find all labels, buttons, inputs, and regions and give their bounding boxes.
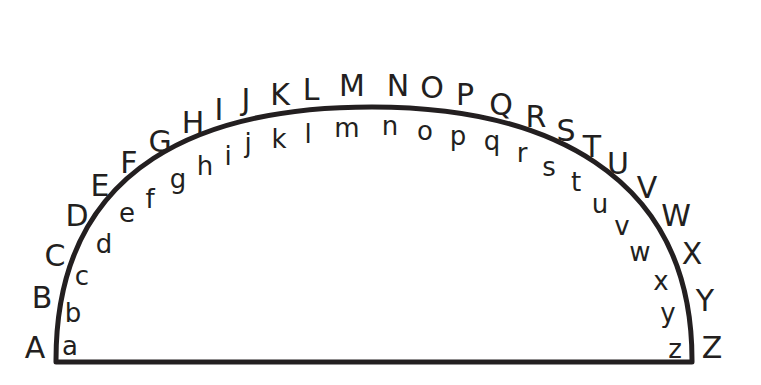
lowercase-letter-m: m [334, 113, 359, 143]
lowercase-letter-i: i [224, 141, 231, 171]
lowercase-letter-o: o [417, 116, 433, 146]
uppercase-letter-X: X [682, 236, 703, 271]
uppercase-letter-W: W [661, 198, 691, 233]
uppercase-letter-R: R [526, 99, 547, 134]
uppercase-letter-I: I [215, 92, 224, 127]
uppercase-letter-T: T [582, 129, 602, 164]
lowercase-letter-p: p [450, 121, 467, 151]
uppercase-letter-B: B [32, 280, 53, 315]
uppercase-letter-J: J [240, 82, 251, 117]
lowercase-letter-h: h [197, 151, 213, 181]
lowercase-letter-a: a [62, 331, 78, 361]
uppercase-letter-Q: Q [489, 87, 513, 122]
uppercase-letter-U: U [607, 146, 629, 181]
uppercase-letter-C: C [45, 238, 66, 273]
uppercase-letter-S: S [556, 113, 575, 148]
uppercase-letter-O: O [420, 70, 444, 105]
lowercase-letter-c: c [75, 261, 89, 291]
uppercase-letter-F: F [120, 145, 137, 180]
lowercase-letter-q: q [484, 126, 501, 156]
lowercase-letter-u: u [592, 189, 608, 219]
lowercase-letter-n: n [382, 111, 398, 141]
lowercase-letter-x: x [653, 266, 668, 296]
uppercase-letter-M: M [339, 68, 365, 103]
lowercase-letter-s: s [542, 152, 556, 182]
uppercase-letter-H: H [182, 105, 205, 140]
uppercase-letter-D: D [65, 198, 88, 233]
lowercase-letter-w: w [629, 237, 650, 267]
lowercase-letter-b: b [65, 298, 82, 328]
lowercase-letter-k: k [271, 124, 286, 154]
lowercase-letter-z: z [668, 334, 682, 364]
uppercase-letter-Z: Z [702, 330, 723, 365]
lowercase-letter-g: g [170, 164, 187, 194]
lowercase-letter-f: f [145, 184, 155, 214]
uppercase-letter-G: G [148, 124, 171, 159]
uppercase-letter-A: A [25, 330, 46, 365]
lowercase-letter-r: r [517, 138, 528, 168]
uppercase-letter-V: V [637, 170, 658, 205]
lowercase-letter-v: v [614, 211, 629, 241]
uppercase-letter-P: P [456, 77, 474, 112]
lowercase-letter-j: j [243, 128, 251, 158]
uppercase-letter-Y: Y [695, 283, 715, 318]
lowercase-letter-t: t [571, 167, 581, 197]
lowercase-letter-e: e [119, 198, 135, 228]
uppercase-letter-E: E [91, 168, 110, 203]
lowercase-letter-d: d [96, 229, 113, 259]
alphabet-arc-diagram: ABCDEFGHIJKLMNOPQRSTUVWXYZ abcdefghijklm… [0, 0, 761, 385]
lowercase-letter-l: l [304, 119, 311, 149]
lowercase-letter-y: y [660, 298, 675, 328]
uppercase-letter-L: L [303, 72, 320, 107]
uppercase-letter-N: N [387, 68, 409, 103]
uppercase-letter-K: K [270, 77, 291, 112]
